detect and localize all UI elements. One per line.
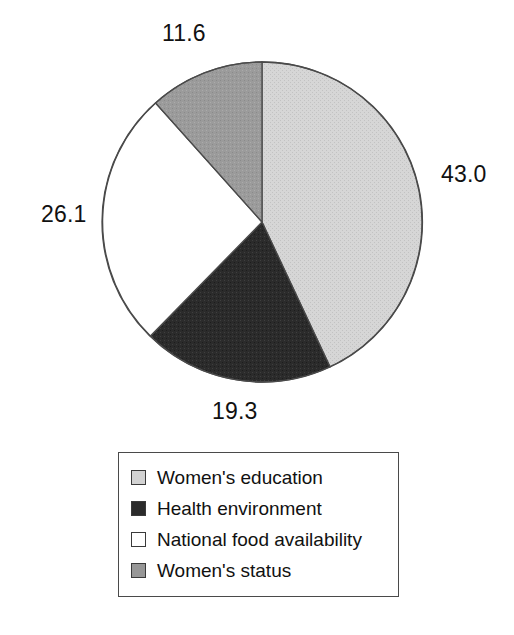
legend-item-health-environment: Health environment (131, 493, 398, 524)
legend-item-womens-education: Women's education (131, 462, 398, 493)
legend-swatch-icon (131, 532, 146, 547)
legend-swatch-icon (131, 563, 146, 578)
pie-plot-area: 11.6 43.0 26.1 19.3 (0, 0, 514, 430)
legend-item-womens-status: Women's status (131, 555, 398, 586)
pie-value-label-national-food-availability: 26.1 (41, 203, 87, 226)
legend-item-national-food-availability: National food availability (131, 524, 398, 555)
legend-swatch-icon (131, 501, 146, 516)
legend-item-label: Health environment (157, 499, 322, 518)
pie-chart-figure: 11.6 43.0 26.1 19.3 Women's education He… (0, 0, 514, 635)
legend-item-label: National food availability (157, 530, 362, 549)
legend-item-label: Women's education (157, 468, 323, 487)
pie-value-label-health-environment: 19.3 (212, 400, 258, 423)
pie-value-label-womens-status: 11.6 (162, 22, 206, 45)
legend-swatch-icon (131, 470, 146, 485)
pie-value-label-womens-education: 43.0 (441, 163, 487, 186)
legend-item-label: Women's status (157, 561, 291, 580)
chart-legend: Women's education Health environment Nat… (118, 452, 399, 597)
